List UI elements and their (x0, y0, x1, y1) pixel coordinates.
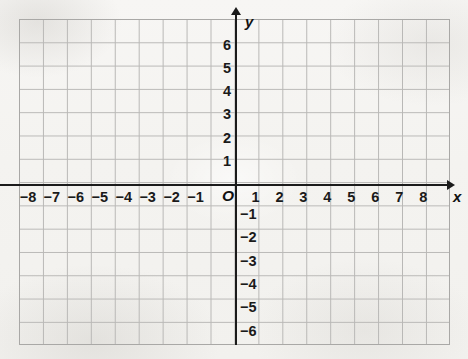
y-tick-label-4: 4 (207, 84, 231, 99)
x-tick-label-neg5: −5 (88, 190, 112, 205)
x-tick-label-5: 5 (339, 190, 363, 205)
x-tick-label-2: 2 (268, 190, 292, 205)
y-axis-line (235, 10, 237, 345)
y-tick-label-1: 1 (207, 154, 231, 169)
plot-area: −8 −7 −6 −5 −4 −3 −2 −1 1 2 3 4 5 6 7 8 … (19, 19, 450, 345)
y-tick-label-2: 2 (207, 131, 231, 146)
x-axis-line (0, 184, 450, 186)
x-tick-label-7: 7 (387, 190, 411, 205)
x-tick-label-neg8: −8 (16, 190, 40, 205)
x-tick-label-8: 8 (411, 190, 435, 205)
x-tick-label-neg2: −2 (160, 190, 184, 205)
y-tick-label-neg4: −4 (240, 277, 270, 292)
y-tick-label-5: 5 (207, 61, 231, 76)
y-tick-label-neg6: −6 (240, 324, 270, 339)
x-tick-label-4: 4 (315, 190, 339, 205)
y-tick-label-neg3: −3 (240, 254, 270, 269)
y-tick-label-3: 3 (207, 107, 231, 122)
x-tick-label-3: 3 (291, 190, 315, 205)
coordinate-grid-page: −8 −7 −6 −5 −4 −3 −2 −1 1 2 3 4 5 6 7 8 … (0, 0, 468, 359)
x-axis-label: x (453, 189, 461, 204)
x-tick-label-neg1: −1 (184, 190, 208, 205)
x-tick-label-neg6: −6 (64, 190, 88, 205)
y-axis-label: y (245, 14, 253, 29)
y-tick-label-neg1: −1 (240, 207, 270, 222)
x-tick-label-neg7: −7 (40, 190, 64, 205)
y-tick-label-6: 6 (207, 38, 231, 53)
x-tick-label-1: 1 (244, 190, 268, 205)
x-tick-label-neg4: −4 (112, 190, 136, 205)
y-tick-label-neg2: −2 (240, 230, 270, 245)
x-tick-label-6: 6 (363, 190, 387, 205)
y-tick-label-neg5: −5 (240, 300, 270, 315)
origin-label: O (222, 188, 234, 204)
x-tick-label-neg3: −3 (136, 190, 160, 205)
y-axis-arrow-icon (231, 7, 241, 15)
